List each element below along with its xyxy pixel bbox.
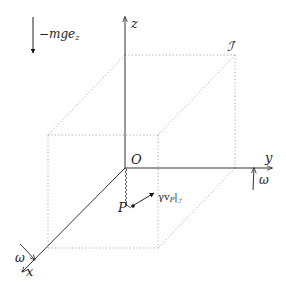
drag-label: γvP|ℐ′: [158, 191, 183, 204]
omega-y-label: ω: [259, 173, 269, 187]
omega-y-arrow: [253, 168, 254, 190]
point-label: P: [117, 200, 127, 215]
z-label: z: [130, 16, 138, 31]
frame-label: ℐ′: [227, 39, 236, 54]
x-axis: [22, 168, 125, 272]
gravity-label: −mgez: [39, 27, 80, 42]
origin-label: O: [131, 152, 142, 167]
drag-arrow: [134, 193, 154, 205]
x-label: x: [26, 264, 34, 279]
y-label: y: [264, 150, 273, 165]
rotating-frame-diagram: z y x O ℐ′ −mgez P γvP|ℐ′ ω ω: [0, 0, 286, 292]
omega-x-label: ω: [15, 251, 25, 265]
